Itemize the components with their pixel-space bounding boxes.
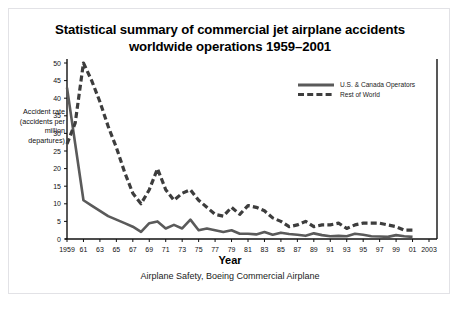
- svg-text:89: 89: [310, 246, 318, 253]
- svg-text:1959: 1959: [59, 246, 75, 253]
- svg-text:97: 97: [376, 246, 384, 253]
- svg-text:0: 0: [57, 236, 61, 243]
- chart-figure: Statistical summary of commercial jet ai…: [8, 8, 450, 294]
- svg-text:77: 77: [211, 246, 219, 253]
- svg-text:73: 73: [178, 246, 186, 253]
- plot-area: 05101520253035404550 1959616365676971737…: [9, 9, 451, 295]
- svg-text:45: 45: [53, 77, 61, 84]
- svg-text:67: 67: [129, 246, 137, 253]
- svg-text:40: 40: [53, 95, 61, 102]
- legend-label-2: Rest of World: [340, 91, 380, 98]
- chart-caption: Airplane Safety, Boeing Commercial Airpl…: [9, 271, 451, 281]
- svg-text:99: 99: [392, 246, 400, 253]
- svg-text:91: 91: [326, 246, 334, 253]
- chart-svg: 05101520253035404550 1959616365676971737…: [9, 9, 451, 295]
- svg-text:25: 25: [53, 148, 61, 155]
- svg-text:95: 95: [359, 246, 367, 253]
- chart-legend: U.S. & Canada OperatorsRest of World: [298, 81, 416, 98]
- svg-text:20: 20: [53, 165, 61, 172]
- svg-text:61: 61: [80, 246, 88, 253]
- svg-text:10: 10: [53, 200, 61, 207]
- svg-text:2003: 2003: [421, 246, 437, 253]
- svg-text:5: 5: [57, 218, 61, 225]
- svg-text:71: 71: [162, 246, 170, 253]
- y-axis-ticks: 05101520253035404550: [53, 60, 67, 243]
- data-series-group: [67, 63, 413, 237]
- svg-text:65: 65: [112, 246, 120, 253]
- svg-text:15: 15: [53, 183, 61, 190]
- svg-text:01: 01: [409, 246, 417, 253]
- x-axis-ticks: 1959616365676971737577798183858789919395…: [59, 239, 437, 253]
- svg-text:30: 30: [53, 130, 61, 137]
- legend-label-1: U.S. & Canada Operators: [340, 81, 416, 89]
- svg-text:87: 87: [293, 246, 301, 253]
- svg-text:50: 50: [53, 60, 61, 67]
- x-axis-label: Year: [9, 254, 451, 266]
- svg-text:85: 85: [277, 246, 285, 253]
- svg-text:63: 63: [96, 246, 104, 253]
- svg-text:35: 35: [53, 112, 61, 119]
- svg-text:75: 75: [195, 246, 203, 253]
- svg-text:83: 83: [261, 246, 269, 253]
- svg-text:79: 79: [228, 246, 236, 253]
- svg-text:69: 69: [145, 246, 153, 253]
- svg-text:81: 81: [244, 246, 252, 253]
- svg-text:93: 93: [343, 246, 351, 253]
